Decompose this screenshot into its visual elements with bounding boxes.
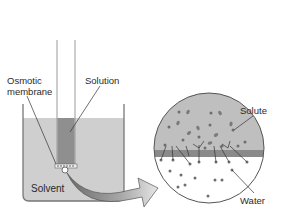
- label-solution: Solution: [85, 75, 119, 86]
- magnify-spot: [62, 167, 68, 173]
- label-membrane: membrane: [7, 86, 52, 97]
- osmosis-diagram: Osmotic membrane Solution Solvent Solute…: [0, 0, 294, 213]
- label-osmotic: Osmotic: [7, 75, 42, 86]
- solution-column: [58, 118, 75, 165]
- label-water: Water: [240, 195, 265, 206]
- solute-region: [150, 90, 270, 150]
- membrane-band: [150, 150, 270, 157]
- tube: [55, 40, 77, 173]
- label-solute: Solute: [240, 105, 267, 116]
- label-solvent: Solvent: [31, 183, 64, 194]
